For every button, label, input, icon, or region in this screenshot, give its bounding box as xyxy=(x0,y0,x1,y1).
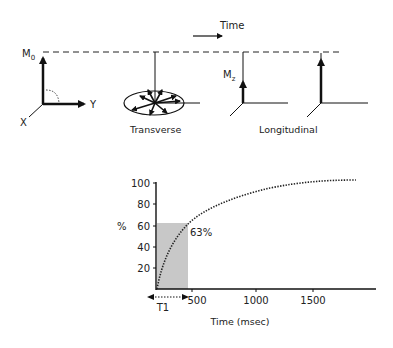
t1-label: T1 xyxy=(156,302,169,313)
svg-text:20: 20 xyxy=(137,263,150,274)
y-axis-label: Y xyxy=(89,99,97,110)
t1-interval-arrow-icon xyxy=(147,294,189,300)
mz-label: Mz xyxy=(223,69,236,83)
x-tick-labels: 500 1000 1500 xyxy=(187,295,325,306)
t1-recovery-chart: 100 80 60 40 20 % 500 1000 1500 Time (ms… xyxy=(117,178,376,327)
svg-text:40: 40 xyxy=(137,242,150,253)
x-axis-title: Time (msec) xyxy=(210,316,270,327)
svg-text:500: 500 xyxy=(187,295,206,306)
coordinate-axes: Y X xyxy=(20,58,97,128)
svg-text:80: 80 xyxy=(137,199,150,210)
svg-text:60: 60 xyxy=(137,221,150,232)
y-axis-title: % xyxy=(117,221,127,232)
transverse-diagram: Transverse xyxy=(124,52,200,135)
t1-shaded-region xyxy=(157,223,188,289)
t1-relaxation-figure: Time M0 Y X Transverse xyxy=(0,0,393,348)
longitudinal-axis-x-2 xyxy=(307,103,321,117)
longitudinal-label: Longitudinal xyxy=(259,124,318,135)
rotation-arc-icon xyxy=(46,90,59,103)
transverse-label: Transverse xyxy=(129,124,181,135)
svg-text:1500: 1500 xyxy=(300,295,325,306)
longitudinal-diagram: Mz Longitudinal xyxy=(223,52,368,135)
svg-text:1000: 1000 xyxy=(243,295,268,306)
x-axis-line xyxy=(29,104,43,117)
x-axis-label: X xyxy=(20,117,27,128)
m0-label: M0 xyxy=(22,48,35,62)
longitudinal-axis-x-1 xyxy=(230,103,243,116)
time-indicator: Time xyxy=(193,20,244,36)
sixty-three-percent-label: 63% xyxy=(190,227,212,238)
svg-text:100: 100 xyxy=(131,178,150,189)
y-tick-labels: 100 80 60 40 20 xyxy=(131,178,150,274)
time-label: Time xyxy=(219,20,244,31)
